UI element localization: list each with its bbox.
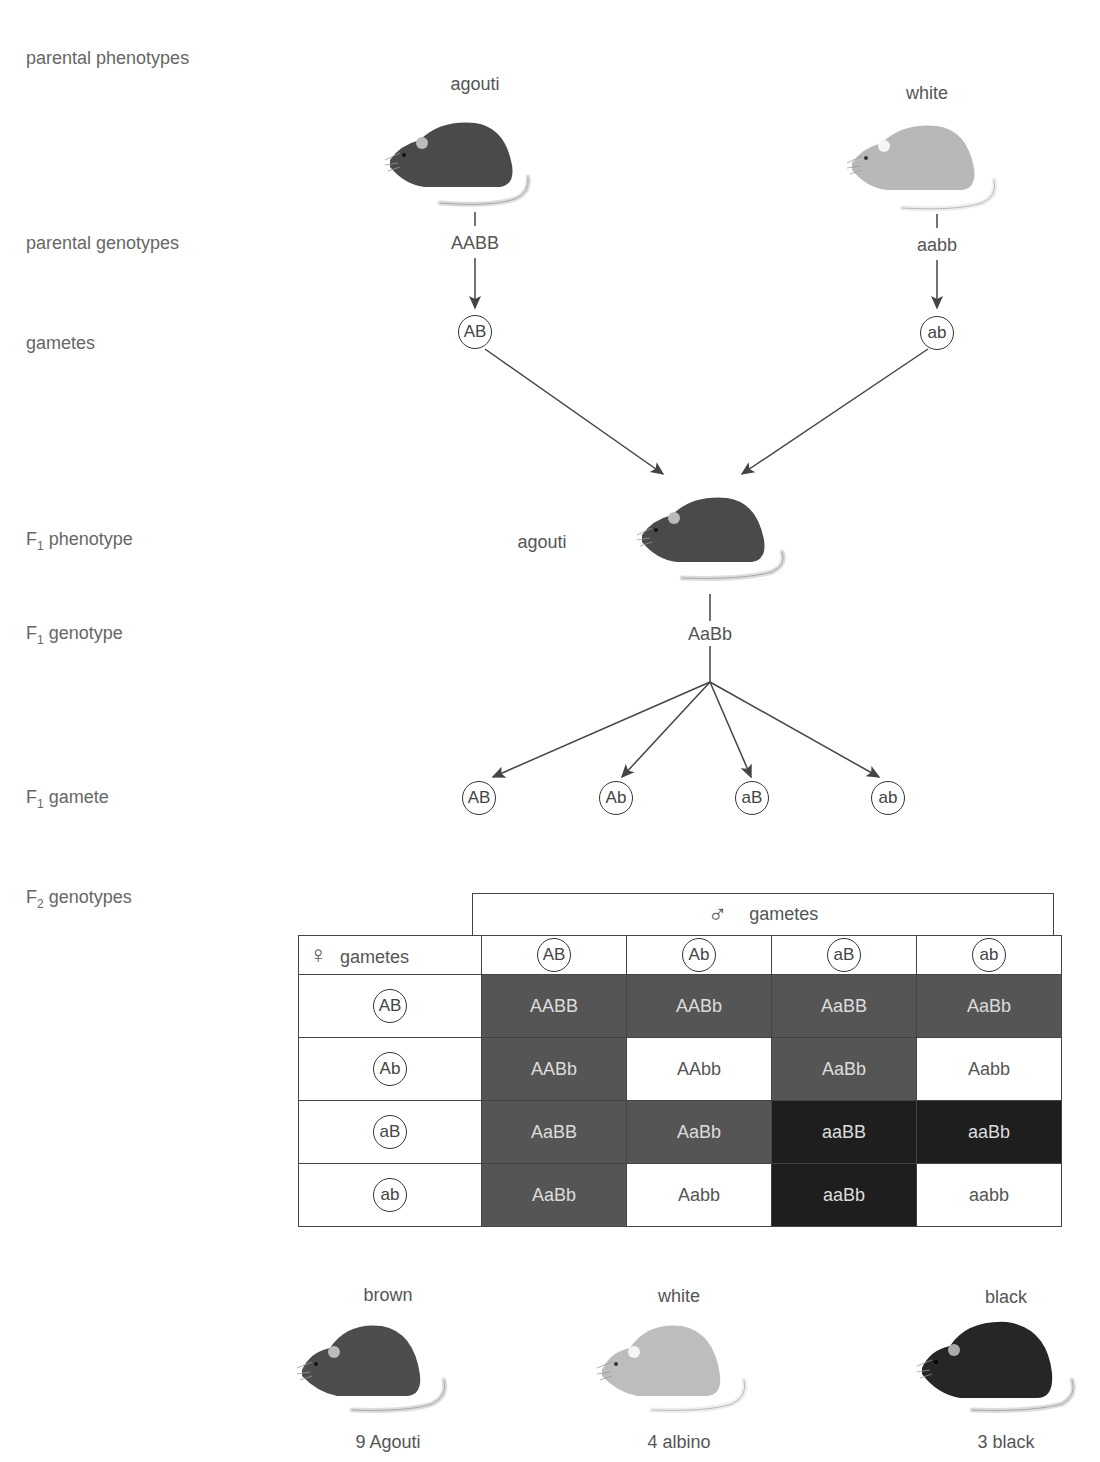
f1-gamete-3: aB [735,781,769,815]
punnett-row: AB AABB AABb AaBB AaBb [299,975,1062,1038]
punnett-cell: AaBB [772,975,917,1038]
f1-phenotype: agouti [517,532,566,553]
mouse-agouti-icon [380,115,540,210]
f2-phenotype-white-count: 4 albino [647,1432,710,1453]
punnett-cell: AABb [482,1038,627,1101]
punnett-cell: Aabb [627,1164,772,1227]
col-header: AB [482,936,627,975]
male-symbol-icon: ♂ [708,899,728,930]
label-gametes: gametes [26,333,95,354]
punnett-cell: AaBb [482,1164,627,1227]
col-header: aB [772,936,917,975]
parent-left-genotype: AABB [451,233,499,254]
mouse-black-icon [912,1318,1087,1418]
punnett-cell: AaBb [772,1038,917,1101]
parent-right-phenotype: white [906,83,948,104]
f1-genotype: AaBb [688,624,732,645]
punnett-cell: Aabb [917,1038,1062,1101]
punnett-cell: AABb [627,975,772,1038]
col-header: ab [917,936,1062,975]
f1-gamete-2: Ab [599,781,633,815]
row-header: ab [299,1164,482,1227]
punnett-cell: aaBb [917,1101,1062,1164]
parent-left-phenotype: agouti [450,74,499,95]
f1-gamete-4: ab [871,781,905,815]
punnett-cell: AAbb [627,1038,772,1101]
punnett-cell: AaBB [482,1101,627,1164]
label-f1-phenotype: F1 phenotype [26,529,133,553]
punnett-row: Ab AABb AAbb AaBb Aabb [299,1038,1062,1101]
mouse-brown-icon [292,1320,457,1415]
punnett-cell: AaBb [917,975,1062,1038]
female-symbol-icon: ♀ [309,941,327,968]
f2-phenotype-black-label: black [985,1287,1027,1308]
f1-gamete-1: AB [462,781,496,815]
punnett-row: aB AaBB AaBb aaBB aaBb [299,1101,1062,1164]
punnett-cell: aaBB [772,1101,917,1164]
punnett-cell: AABB [482,975,627,1038]
row-header: Ab [299,1038,482,1101]
label-f1-genotype: F1 genotype [26,623,123,647]
f2-phenotype-brown-label: brown [363,1285,412,1306]
col-header: Ab [627,936,772,975]
label-parental-phenotypes: parental phenotypes [26,48,189,69]
label-f2-genotypes: F2 genotypes [26,887,132,911]
female-gametes-header: ♀ gametes [299,936,482,975]
punnett-cell: aaBb [772,1164,917,1227]
f2-phenotype-brown-count: 9 Agouti [355,1432,420,1453]
punnett-cell: aabb [917,1164,1062,1227]
male-gametes-label: gametes [749,904,818,925]
mouse-white-icon [842,118,1007,213]
mouse-white-f2-icon [592,1320,757,1415]
label-f1-gamete: F1 gamete [26,787,109,811]
f2-phenotype-black-count: 3 black [977,1432,1034,1453]
label-parental-genotypes: parental genotypes [26,233,179,254]
row-header: AB [299,975,482,1038]
cross-diagram-lines [0,0,1100,1462]
parent-right-gamete: ab [920,316,954,350]
mouse-f1-agouti-icon [632,490,792,585]
parent-right-genotype: aabb [917,235,957,256]
male-gametes-header: ♂ gametes [472,893,1054,935]
row-header: aB [299,1101,482,1164]
female-gametes-label: gametes [340,947,409,967]
f2-phenotype-white-label: white [658,1286,700,1307]
parent-left-gamete: AB [458,315,492,349]
punnett-cell: AaBb [627,1101,772,1164]
punnett-row: ab AaBb Aabb aaBb aabb [299,1164,1062,1227]
punnett-square: ♀ gametes AB Ab aB ab AB AABB AABb AaBB … [298,935,1062,1227]
